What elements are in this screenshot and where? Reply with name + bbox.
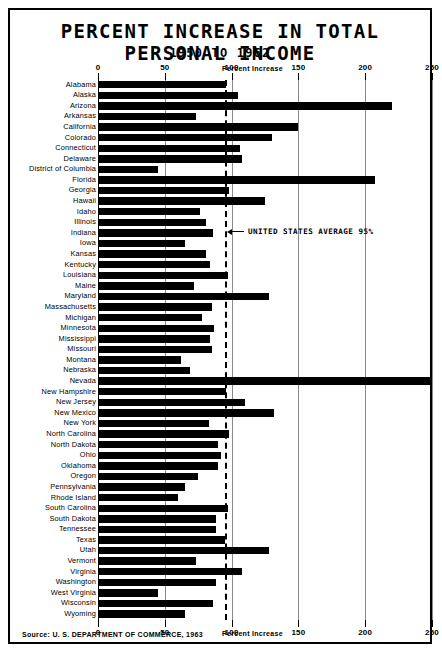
x-tick-label-top-0: 0 [96, 63, 101, 72]
bar [98, 187, 229, 194]
category-label: Nebraska [63, 365, 96, 374]
bar-row [98, 493, 432, 503]
bar-row [98, 504, 432, 514]
bar-row [98, 472, 432, 482]
bar-row [98, 514, 432, 524]
bar-row [98, 239, 432, 249]
bar [98, 473, 198, 480]
category-label: Kansas [70, 249, 96, 258]
bar-row [98, 588, 432, 598]
bar [98, 314, 202, 321]
category-label: Ohio [80, 450, 96, 459]
bar-row [98, 556, 432, 566]
x-tick-label-bottom-100: 100 [225, 628, 239, 637]
bar-row [98, 196, 432, 206]
category-label: Idaho [77, 207, 96, 216]
bar-row [98, 91, 432, 101]
bar [98, 325, 214, 332]
bar-row [98, 271, 432, 281]
bar [98, 356, 181, 363]
tick-150 [298, 73, 299, 80]
category-label: Tennessee [59, 524, 96, 533]
bar-row [98, 260, 432, 270]
bar [98, 388, 226, 395]
bar [98, 367, 190, 374]
bar-row [98, 175, 432, 185]
category-labels: AlabamaAlaskaArizonaArkansasCaliforniaCo… [22, 80, 96, 620]
bar [98, 568, 242, 575]
category-label: Alaska [73, 90, 96, 99]
x-tick-label-top-250: 250 [425, 63, 439, 72]
category-label: Mississippi [59, 334, 96, 343]
bar [98, 547, 269, 554]
category-label: Pennsylvania [50, 482, 96, 491]
bar [98, 282, 194, 289]
category-label: Illinois [74, 217, 96, 226]
category-label: Texas [76, 535, 96, 544]
category-label: Colorado [65, 133, 96, 142]
tick-200 [365, 73, 366, 80]
gridline-250 [432, 80, 433, 620]
category-label: Arkansas [64, 111, 96, 120]
bar [98, 240, 185, 247]
category-label: Arizona [70, 101, 96, 110]
bar [98, 123, 298, 130]
bar-row [98, 324, 432, 334]
bar-row [98, 122, 432, 132]
bar [98, 208, 200, 215]
bar [98, 579, 216, 586]
category-label: West Virginia [51, 588, 96, 597]
plot-area: 005050100100150150200200250250UNITED STA… [98, 80, 432, 620]
category-label: Florida [72, 175, 96, 184]
bar-row [98, 133, 432, 143]
bar [98, 515, 216, 522]
category-label: Nevada [70, 376, 96, 385]
bar-row [98, 112, 432, 122]
category-label: North Dakota [51, 440, 96, 449]
bar [98, 430, 229, 437]
us-average-annotation-label: UNITED STATES AVERAGE 95% [248, 227, 374, 236]
bar [98, 610, 185, 617]
category-label: Hawaii [73, 196, 96, 205]
category-label: New Hampshire [41, 387, 96, 396]
bar [98, 441, 218, 448]
bar [98, 303, 212, 310]
tick-100 [232, 620, 233, 627]
bar-row [98, 302, 432, 312]
bar-row [98, 429, 432, 439]
category-label: Washington [56, 577, 96, 586]
category-label: Rhode Island [51, 493, 96, 502]
bar-row [98, 345, 432, 355]
x-tick-label-bottom-150: 150 [291, 628, 305, 637]
bar-row [98, 249, 432, 259]
category-label: Utah [80, 545, 96, 554]
x-tick-label-top-150: 150 [291, 63, 305, 72]
category-label: Virginia [70, 567, 96, 576]
category-label: Massachusetts [45, 302, 96, 311]
bar-row [98, 292, 432, 302]
bar [98, 377, 432, 384]
chart-subtitle: 1950 TO 1962 [10, 46, 430, 60]
tick-50 [165, 73, 166, 80]
bar-row [98, 186, 432, 196]
category-label: Minnesota [61, 323, 96, 332]
bar [98, 102, 392, 109]
bar [98, 261, 210, 268]
bar-row [98, 567, 432, 577]
bar-row [98, 80, 432, 90]
tick-150 [298, 620, 299, 627]
bar [98, 219, 206, 226]
bar-row [98, 546, 432, 556]
bar [98, 145, 240, 152]
bar [98, 589, 158, 596]
bar-row [98, 376, 432, 386]
bar [98, 81, 226, 88]
category-label: Georgia [69, 185, 96, 194]
category-label: California [63, 122, 96, 131]
category-label: South Dakota [49, 514, 96, 523]
chart-frame: PERCENT INCREASE IN TOTAL PERSONAL INCOM… [8, 8, 432, 644]
bar-row [98, 419, 432, 429]
category-label: Louisiana [63, 270, 96, 279]
category-label: Connecticut [55, 143, 96, 152]
bar [98, 409, 274, 416]
